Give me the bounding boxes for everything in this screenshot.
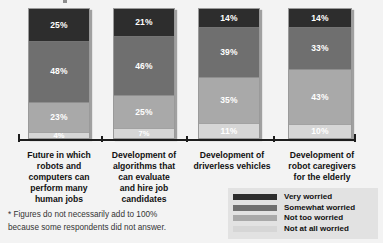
segment-not-at-all-worried-2[interactable]: 7%: [114, 128, 174, 138]
segment-somewhat-worried-3[interactable]: 39%: [199, 27, 259, 78]
stacked-bar-1[interactable]: 25% 48% 23% 4%: [28, 8, 90, 139]
legend: Very worried Somewhat worried Not too wo…: [228, 188, 378, 239]
bar-group-2: 21% 46% 25% 7%: [113, 8, 175, 139]
category-label-line: Development of: [186, 150, 278, 161]
segment-value-label: 4%: [53, 132, 64, 138]
segment-somewhat-worried-2[interactable]: 46%: [114, 36, 174, 96]
segment-value-label: 39%: [220, 48, 238, 57]
segment-value-label: 35%: [220, 96, 238, 105]
category-label-4: Development of robot caregivers for the …: [277, 150, 367, 183]
segment-somewhat-worried-4[interactable]: 33%: [289, 27, 351, 70]
segment-very-worried-3[interactable]: 14%: [199, 9, 259, 27]
category-label-line: computers can: [16, 172, 102, 183]
segment-value-label: 48%: [50, 67, 68, 76]
footnote: * Figures do not necessarily add to 100%…: [8, 209, 213, 234]
category-label-line: human jobs: [16, 194, 102, 205]
segment-value-label: 11%: [220, 127, 237, 136]
legend-item-not-at-all-worried[interactable]: Not at all worried: [233, 224, 374, 235]
segment-not-at-all-worried-3[interactable]: 11%: [199, 123, 259, 138]
segment-value-label: 46%: [135, 62, 153, 71]
x-axis-left-cap: [18, 134, 20, 142]
category-label-line: can evaluate: [100, 172, 188, 183]
category-label-line: and hire job: [100, 183, 188, 194]
x-axis-tick-2: [186, 136, 188, 142]
plot-area: 25% 48% 23% 4% 21% 46%: [0, 0, 383, 147]
segment-not-at-all-worried-1[interactable]: 4%: [29, 132, 89, 138]
category-label-line: driverless vehicles: [186, 161, 278, 172]
legend-label: Very worried: [284, 192, 332, 202]
segment-somewhat-worried-1[interactable]: 48%: [29, 41, 89, 102]
segment-not-too-worried-2[interactable]: 25%: [114, 95, 174, 128]
legend-label: Somewhat worried: [284, 203, 355, 213]
category-label-line: algorithms that: [100, 161, 188, 172]
legend-swatch-icon: [233, 194, 277, 200]
bar-group-4: 14% 33% 43% 10%: [288, 8, 352, 139]
x-axis-tick-1: [101, 136, 103, 142]
bar-group-1: 25% 48% 23% 4%: [28, 8, 90, 139]
category-label-line: Future in which: [16, 150, 102, 161]
category-label-line: perform many: [16, 183, 102, 194]
segment-value-label: 14%: [311, 14, 329, 23]
stacked-bar-4[interactable]: 14% 33% 43% 10%: [288, 8, 352, 139]
legend-swatch-icon: [233, 215, 277, 221]
category-label-line: robot caregivers: [277, 161, 367, 172]
x-axis-right-cap: [354, 134, 356, 142]
segment-not-too-worried-4[interactable]: 43%: [289, 69, 351, 124]
stacked-bar-chart: 25% 48% 23% 4% 21% 46%: [0, 0, 383, 243]
footnote-line-1: * Figures do not necessarily add to 100%: [8, 209, 213, 222]
segment-value-label: 10%: [311, 127, 329, 136]
segment-value-label: 25%: [50, 21, 68, 30]
segment-not-too-worried-3[interactable]: 35%: [199, 77, 259, 123]
category-label-line: candidates: [100, 194, 188, 205]
segment-not-at-all-worried-4[interactable]: 10%: [289, 124, 351, 138]
segment-value-label: 33%: [311, 44, 329, 53]
legend-swatch-icon: [233, 205, 277, 211]
legend-label: Not too worried: [284, 213, 343, 223]
stacked-bar-2[interactable]: 21% 46% 25% 7%: [113, 8, 175, 139]
segment-value-label: 7%: [138, 130, 149, 138]
segment-value-label: 21%: [135, 18, 153, 27]
segment-value-label: 23%: [50, 113, 68, 122]
category-label-line: Development of: [277, 150, 367, 161]
segment-very-worried-1[interactable]: 25%: [29, 9, 89, 41]
legend-item-very-worried[interactable]: Very worried: [233, 192, 374, 203]
segment-value-label: 14%: [220, 14, 238, 23]
legend-item-somewhat-worried[interactable]: Somewhat worried: [233, 203, 374, 214]
segment-not-too-worried-1[interactable]: 23%: [29, 102, 89, 132]
category-label-3: Development of driverless vehicles: [186, 150, 278, 172]
category-label-line: Development of: [100, 150, 188, 161]
bar-group-3: 14% 39% 35% 11%: [198, 8, 260, 139]
x-axis-tick-3: [273, 136, 275, 142]
segment-very-worried-4[interactable]: 14%: [289, 9, 351, 27]
legend-label: Not at all worried: [284, 224, 349, 234]
category-label-2: Development of algorithms that can evalu…: [100, 150, 188, 205]
category-label-line: robots and: [16, 161, 102, 172]
segment-value-label: 43%: [311, 93, 329, 102]
category-label-line: for the elderly: [277, 172, 367, 183]
legend-item-not-too-worried[interactable]: Not too worried: [233, 213, 374, 224]
segment-very-worried-2[interactable]: 21%: [114, 9, 174, 36]
legend-swatch-icon: [233, 226, 277, 232]
stacked-bar-3[interactable]: 14% 39% 35% 11%: [198, 8, 260, 139]
category-label-1: Future in which robots and computers can…: [16, 150, 102, 205]
segment-value-label: 25%: [135, 108, 153, 117]
footnote-line-2: because some respondents did not answer.: [8, 222, 213, 235]
